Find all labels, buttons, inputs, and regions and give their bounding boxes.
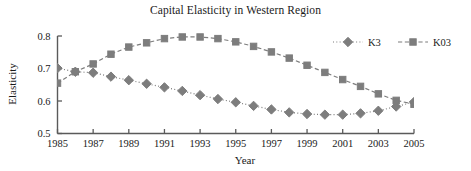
y-axis-tick-label: 0.8 — [37, 31, 50, 42]
data-point-marker — [343, 37, 352, 46]
legend-entry-K03[interactable]: K03 — [398, 37, 451, 48]
y-axis-tick-label: 0.6 — [37, 96, 50, 107]
data-point-marker — [124, 76, 133, 85]
data-point-marker — [285, 108, 294, 117]
data-point-marker — [106, 72, 115, 81]
chart-legend: K3K03 — [333, 37, 451, 48]
data-point-marker — [215, 35, 221, 41]
x-axis-tick-label: 1989 — [118, 138, 139, 149]
data-point-marker — [250, 43, 256, 49]
series-line — [58, 37, 415, 104]
data-point-marker — [126, 44, 132, 50]
data-point-marker — [338, 110, 347, 119]
x-axis-tick-label: 1993 — [190, 138, 211, 149]
data-point-marker — [357, 83, 363, 89]
data-point-marker — [410, 39, 416, 45]
y-axis-title: Elasticity — [6, 63, 18, 105]
x-axis-tick-label: 2001 — [332, 138, 353, 149]
x-axis-tick-label: 1995 — [225, 138, 246, 149]
data-point-marker — [160, 83, 169, 92]
data-point-marker — [340, 76, 346, 82]
data-point-marker — [322, 69, 328, 75]
data-point-marker — [286, 55, 292, 61]
data-point-marker — [231, 98, 240, 107]
data-point-marker — [142, 79, 151, 88]
data-point-marker — [304, 62, 310, 68]
legend-entry-K3[interactable]: K3 — [333, 37, 381, 48]
data-point-marker — [161, 35, 167, 41]
data-point-marker — [267, 105, 276, 114]
data-point-marker — [90, 61, 96, 67]
x-axis-tick-label: 1991 — [154, 138, 175, 149]
data-point-marker — [320, 110, 329, 119]
data-point-marker — [302, 109, 311, 118]
x-axis-tick-label: 1999 — [297, 138, 318, 149]
data-point-marker — [268, 49, 274, 55]
data-point-marker — [213, 94, 222, 103]
x-axis-tick-label: 1997 — [261, 138, 282, 149]
legend-label: K3 — [368, 37, 381, 48]
y-axis-tick-label: 0.7 — [37, 63, 50, 74]
data-point-marker — [108, 51, 114, 57]
data-point-marker — [249, 101, 258, 110]
data-point-marker — [374, 106, 383, 115]
x-axis-tick-labels: 1985198719891991199319951997199920012003… — [47, 138, 425, 149]
data-point-marker — [197, 34, 203, 40]
data-point-marker — [88, 68, 97, 77]
data-point-marker — [356, 109, 365, 118]
data-point-marker — [375, 91, 381, 97]
data-point-marker — [411, 101, 417, 107]
chart-figure: Capital Elasticity in Western Region 0.5… — [0, 0, 471, 171]
data-point-marker — [143, 40, 149, 46]
data-series-K3 — [53, 63, 419, 119]
data-point-marker — [178, 86, 187, 95]
data-point-marker — [54, 80, 60, 86]
x-axis-title: Year — [235, 154, 256, 166]
x-axis-tick-label: 2005 — [404, 138, 425, 149]
data-point-marker — [179, 34, 185, 40]
data-point-marker — [393, 97, 399, 103]
legend-label: K03 — [433, 37, 451, 48]
data-series-K03 — [54, 34, 417, 108]
x-axis-tick-label: 1985 — [47, 138, 68, 149]
x-axis-tick-label: 2003 — [368, 138, 389, 149]
data-point-marker — [72, 69, 78, 75]
data-point-marker — [53, 63, 62, 72]
data-point-marker — [195, 90, 204, 99]
chart-plot-area: 0.50.60.70.8 198519871989199119931995199… — [0, 0, 471, 171]
data-series-layer — [53, 34, 419, 120]
y-axis-tick-labels: 0.50.60.70.8 — [37, 31, 50, 140]
x-axis-tick-label: 1987 — [83, 138, 104, 149]
data-point-marker — [233, 39, 239, 45]
